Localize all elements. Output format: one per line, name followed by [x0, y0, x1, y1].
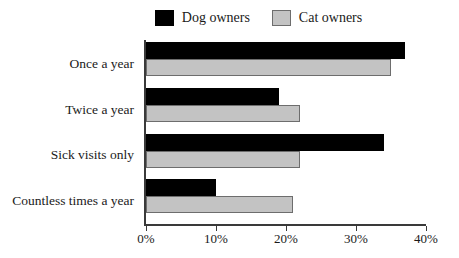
bar-dog-owners	[146, 134, 384, 151]
y-axis-category-labels: Once a yearTwice a yearSick visits onlyC…	[0, 41, 139, 224]
x-axis-tick-label: 40%	[414, 232, 438, 245]
x-axis-tick-label: 30%	[344, 232, 368, 245]
bar-dog-owners	[146, 88, 279, 105]
bar-groups	[146, 41, 426, 224]
bar-group	[146, 133, 426, 179]
bar-group	[146, 178, 426, 224]
y-axis-category-label: Sick visits only	[0, 148, 139, 162]
plot-area: 0%10%20%30%40% Once a yearTwice a yearSi…	[0, 0, 459, 258]
x-axis-tick-label: 20%	[274, 232, 298, 245]
bar-dog-owners	[146, 179, 216, 196]
bar-chart: Dog owners Cat owners 0%10%20%30%40% Onc…	[0, 0, 459, 258]
bar-dog-owners	[146, 42, 405, 59]
bar-cat-owners	[146, 196, 293, 213]
bar-group	[146, 41, 426, 87]
bar-cat-owners	[146, 59, 391, 76]
y-axis-category-label: Twice a year	[0, 103, 139, 117]
x-axis-tick-label: 10%	[204, 232, 228, 245]
bar-cat-owners	[146, 105, 300, 122]
bar-cat-owners	[146, 151, 300, 168]
x-axis-tick-label: 0%	[137, 232, 154, 245]
y-axis-category-label: Countless times a year	[0, 194, 139, 208]
bar-group	[146, 87, 426, 133]
y-axis-category-label: Once a year	[0, 57, 139, 71]
x-axis-line	[144, 224, 426, 226]
